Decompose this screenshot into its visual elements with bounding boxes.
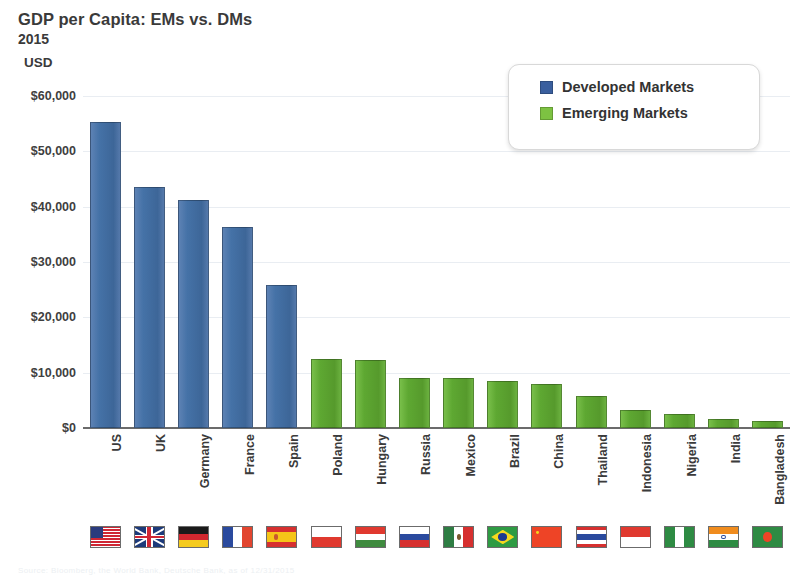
legend-swatch-icon (540, 107, 553, 120)
y-axis-tick-label: $50,000 (2, 144, 76, 158)
bar-poland[interactable] (311, 359, 342, 428)
y-axis-tick-label: $60,000 (2, 89, 76, 103)
legend-label: Developed Markets (562, 79, 694, 95)
x-axis-tick-label: Poland (331, 434, 345, 476)
x-axis-tick-label: Spain (287, 434, 301, 468)
flag-icon-brazil (487, 526, 518, 548)
x-axis-tick-label: Russia (419, 434, 433, 475)
flag-icon-bangladesh (752, 526, 783, 548)
bar-spain[interactable] (266, 285, 297, 428)
x-axis-tick-label: Germany (198, 434, 212, 488)
bar-germany[interactable] (178, 200, 209, 428)
chart-subtitle: 2015 (18, 31, 49, 47)
bar-thailand[interactable] (576, 396, 607, 428)
y-axis-tick-label: $20,000 (2, 310, 76, 324)
flag-icon-poland (311, 526, 342, 548)
x-axis-tick-label: France (243, 434, 257, 475)
flag-icon-russia (399, 526, 430, 548)
legend-item-emerging-markets: Emerging Markets (540, 105, 688, 121)
legend-item-developed-markets: Developed Markets (540, 79, 694, 95)
y-axis-unit-label: USD (24, 55, 53, 70)
bar-india[interactable] (708, 419, 739, 428)
bar-us[interactable] (90, 122, 121, 428)
bar-bangladesh[interactable] (752, 421, 783, 428)
x-axis-tick-label: Brazil (508, 434, 522, 468)
bar-mexico[interactable] (443, 378, 474, 428)
flag-icon-mexico (443, 526, 474, 548)
chart-legend: Developed Markets Emerging Markets (508, 64, 760, 150)
x-axis-tick-label: Indonesia (640, 434, 654, 492)
y-axis-tick-label: $30,000 (2, 255, 76, 269)
flag-icon-indonesia (620, 526, 651, 548)
x-axis-tick-label: Nigeria (685, 434, 699, 476)
bar-russia[interactable] (399, 378, 430, 428)
legend-swatch-icon (540, 81, 553, 94)
x-axis-tick-label: China (552, 434, 566, 469)
flag-icon-china (531, 526, 562, 548)
gridline (83, 151, 790, 152)
bar-brazil[interactable] (487, 381, 518, 428)
bar-china[interactable] (531, 384, 562, 428)
bar-uk[interactable] (134, 187, 165, 428)
flag-icon-france (222, 526, 253, 548)
bar-hungary[interactable] (355, 360, 386, 428)
x-axis-tick-label: Thailand (596, 434, 610, 485)
chart-container: GDP per Capita: EMs vs. DMs 2015 USD $0$… (0, 0, 800, 576)
x-axis-tick-label: US (110, 434, 124, 451)
x-axis-tick-label: UK (154, 434, 168, 452)
flag-icon-hungary (355, 526, 386, 548)
x-axis-tick-labels: USUKGermanyFranceSpainPolandHungaryRussi… (83, 432, 790, 524)
x-axis-tick-label: Hungary (375, 434, 389, 485)
page-title: GDP per Capita: EMs vs. DMs (18, 10, 252, 29)
bar-france[interactable] (222, 227, 253, 428)
flag-icon-spain (266, 526, 297, 548)
source-note: Source: Bloomberg, the World Bank, Deuts… (18, 566, 295, 575)
x-axis-tick-label: Bangladesh (773, 434, 787, 505)
flag-icon-nigeria (664, 526, 695, 548)
y-axis-tick-label: $0 (2, 421, 76, 435)
flag-icon-india (708, 526, 739, 548)
y-axis-tick-labels: $0$10,000$20,000$30,000$40,000$50,000$60… (0, 96, 76, 428)
flag-icon-uk (134, 526, 165, 548)
legend-label: Emerging Markets (562, 105, 688, 121)
y-axis-tick-label: $10,000 (2, 366, 76, 380)
y-axis-tick-label: $40,000 (2, 200, 76, 214)
flag-icon-germany (178, 526, 209, 548)
x-axis-tick-label: Mexico (464, 434, 478, 476)
bar-nigeria[interactable] (664, 414, 695, 428)
flag-icon-thailand (576, 526, 607, 548)
x-axis-tick-label: India (729, 434, 743, 463)
country-flag-row (83, 526, 790, 560)
bar-indonesia[interactable] (620, 410, 651, 428)
flag-icon-us (90, 526, 121, 548)
